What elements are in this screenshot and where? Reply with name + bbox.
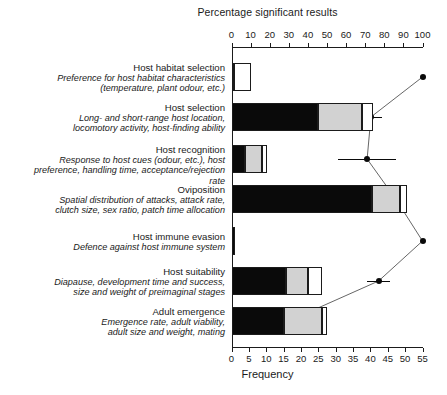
axis-tick-label: 100 [408, 29, 438, 40]
category-description: Long- and short-range host location, [20, 113, 225, 123]
category-name: Host selection [20, 103, 225, 113]
bar-segment-not-reported [400, 185, 407, 213]
category-label-5: Host immune evasionDefence against host … [20, 232, 225, 253]
category-label-6: Host suitabilityDiapause, development ti… [20, 267, 225, 298]
bar-segment-significant [232, 227, 235, 255]
axis-tick [336, 348, 337, 352]
axis-tick [346, 43, 347, 47]
category-name: Host habitat selection [20, 63, 225, 73]
category-description: adult size and weight, mating [20, 327, 225, 337]
bar-segment-significant [232, 267, 287, 295]
axis-tick-label: 55 [408, 353, 438, 364]
axis-tick [370, 348, 371, 352]
axis-tick [284, 348, 285, 352]
category-description: clutch size, sex ratio, patch time alloc… [20, 205, 225, 215]
axis-tick [308, 43, 309, 47]
axis-tick [249, 348, 250, 352]
bar-1 [232, 63, 251, 91]
category-description: Spatial distribution of attacks, attack … [20, 195, 225, 205]
bar-segment-not-reported [234, 63, 251, 91]
bar-7 [232, 307, 327, 335]
bar-segment-non-significant [372, 185, 399, 213]
axis-tick [353, 348, 354, 352]
axis-tick [301, 348, 302, 352]
bar-5 [232, 227, 235, 255]
axis-tick [327, 43, 328, 47]
bar-segment-significant [232, 185, 373, 213]
axis-tick [251, 43, 252, 47]
bar-segment-significant [232, 63, 234, 91]
bar-segment-non-significant [284, 307, 323, 335]
axis-tick [270, 43, 271, 47]
category-description: size and weight of preimaginal stages [20, 287, 225, 297]
axis-tick [318, 348, 319, 352]
axis-tick [384, 43, 385, 47]
category-description: Defence against host immune system [20, 242, 225, 252]
category-description: Diapause, development time and success, [20, 277, 225, 287]
category-label-3: Host recognitionResponse to host cues (o… [20, 145, 225, 187]
bar-segment-not-reported [308, 267, 322, 295]
bar-segment-non-significant [286, 267, 308, 295]
axis-tick [232, 348, 233, 352]
bar-segment-not-reported [362, 103, 373, 131]
percentage-point [420, 74, 426, 80]
category-label-1: Host habitat selectionPreference for hos… [20, 63, 225, 94]
bar-4 [232, 185, 407, 213]
percentage-point [376, 278, 382, 284]
bar-segment-not-reported [322, 307, 326, 335]
axis-tick [423, 348, 424, 352]
category-name: Host recognition [20, 145, 225, 155]
axis-tick [405, 348, 406, 352]
top-axis-title: Percentage significant results [0, 6, 447, 18]
axis-tick [403, 43, 404, 47]
bar-segment-significant [232, 145, 246, 173]
axis-line [232, 47, 423, 48]
axis-tick [266, 348, 267, 352]
bar-segment-non-significant [318, 103, 362, 131]
axis-tick [388, 348, 389, 352]
category-description: (temperature, plant odour, etc.) [20, 83, 225, 93]
percentage-point [364, 156, 370, 162]
bar-segment-significant [232, 307, 284, 335]
bar-2 [232, 103, 373, 131]
category-label-4: OvipositionSpatial distribution of attac… [20, 185, 225, 216]
category-description: Response to host cues (odour, etc.), hos… [20, 155, 225, 165]
axis-tick [289, 43, 290, 47]
axis-line [232, 347, 423, 348]
category-description: locomotory activity, host-finding abilit… [20, 123, 225, 133]
axis-tick [423, 43, 424, 47]
category-description: Emergence rate, adult viability, [20, 317, 225, 327]
bar-segment-not-reported [262, 145, 266, 173]
category-label-7: Adult emergenceEmergence rate, adult via… [20, 307, 225, 338]
category-label-2: Host selectionLong- and short-range host… [20, 103, 225, 134]
category-name: Host immune evasion [20, 232, 225, 242]
category-name: Oviposition [20, 185, 225, 195]
bar-segment-non-significant [245, 145, 262, 173]
x-axis-title: Frequency [0, 368, 447, 380]
bar-6 [232, 267, 323, 295]
category-name: Adult emergence [20, 307, 225, 317]
category-name: Host suitability [20, 267, 225, 277]
figure-panel: Percentage significant results 010203040… [0, 0, 447, 395]
bar-3 [232, 145, 267, 173]
category-description: Preference for host habitat characterist… [20, 73, 225, 83]
axis-tick [365, 43, 366, 47]
bar-segment-significant [232, 103, 318, 131]
percentage-point [420, 238, 426, 244]
